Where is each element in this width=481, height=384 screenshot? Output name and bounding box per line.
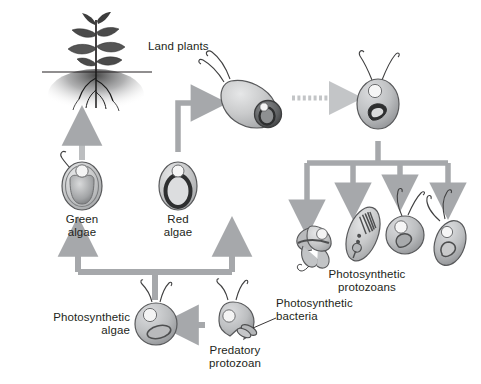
label-photosynthetic-bacteria: Photosynthetic bacteria [276, 297, 386, 323]
label-photosynthetic-algae: Photosynthetic algae [8, 311, 130, 337]
land-plant-illustration [42, 12, 152, 121]
label-land-plants: Land plants [148, 40, 238, 53]
red-algae-cell [159, 162, 197, 210]
green-algae-cell [61, 151, 102, 210]
photosynthetic-protozoan-1 [297, 226, 331, 271]
predatory-protozoan-cell [217, 279, 276, 340]
photosynthetic-protozoan-4 [427, 190, 471, 270]
arrow-red-algae-to-engulfing-cell [178, 103, 206, 152]
label-predatory-protozoan: Predatory protozoan [185, 344, 285, 370]
arrow-photosynthetic-algae-to-green-red [78, 240, 232, 300]
photosynthetic-protozoan-3 [386, 188, 424, 254]
engulfing-protozoan-cell [199, 51, 282, 128]
label-green-algae: Green algae [42, 213, 122, 239]
photosynthetic-protozoan-2 [339, 203, 386, 266]
label-photosynthetic-protozoans: Photosynthetic protozoans [312, 268, 422, 294]
label-red-algae: Red algae [139, 213, 217, 239]
diagram-canvas: Land plants Green algae Red algae Photos… [0, 0, 481, 384]
secondary-endosymbiont-cell [357, 51, 399, 129]
